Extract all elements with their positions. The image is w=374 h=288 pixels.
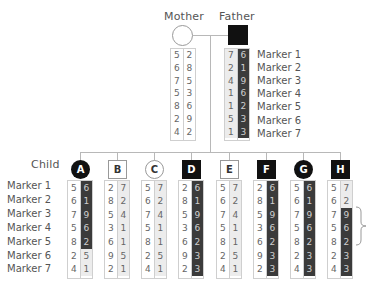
allele-column-left: 2853692	[254, 181, 266, 278]
allele-column-right: 7241151	[229, 181, 242, 278]
child-symbol-h: H	[331, 160, 350, 179]
allele-cell: 4	[155, 208, 167, 222]
marker-label: Marker 2	[257, 62, 301, 73]
allele-cell: 2	[105, 181, 117, 195]
allele-cell: 1	[304, 195, 316, 209]
descent-line	[210, 35, 211, 152]
allele-cell: 5	[230, 249, 242, 263]
allele-cell: 1	[238, 62, 250, 75]
allele-cell: 5	[179, 208, 191, 222]
allele-cell: 2	[118, 195, 130, 209]
allele-cell: 8	[254, 195, 266, 209]
allele-cell: 6	[304, 181, 316, 195]
child-symbol-a: A	[71, 160, 90, 179]
child-symbol-g: G	[294, 160, 313, 179]
allele-cell: 3	[192, 249, 204, 263]
allele-cell: 6	[179, 235, 191, 249]
allele-cell: 2	[328, 249, 340, 263]
allele-cell: 9	[192, 208, 204, 222]
allele-cell: 3	[254, 222, 266, 236]
allele-cell: 1	[118, 235, 130, 249]
allele-cell: 1	[81, 262, 93, 276]
allele-column-left: 5675824	[68, 181, 80, 278]
allele-cell: 8	[179, 195, 191, 209]
allele-cell: 3	[238, 125, 250, 138]
allele-column-right: 7241151	[154, 181, 167, 278]
allele-cell: 9	[267, 208, 279, 222]
allele-cell: 9	[184, 113, 196, 126]
allele-cell: 5	[291, 222, 303, 236]
allele-cell: 3	[341, 262, 353, 276]
father-symbol	[228, 25, 248, 45]
allele-cell: 6	[304, 222, 316, 236]
allele-cell: 1	[225, 100, 237, 113]
allele-column-left: 2853692	[179, 181, 191, 278]
allele-cell: 7	[217, 208, 229, 222]
allele-cell: 3	[238, 113, 250, 126]
allele-cell: 3	[341, 249, 353, 263]
allele-cell: 5	[118, 249, 130, 263]
allele-cell: 2	[341, 235, 353, 249]
allele-cell: 8	[68, 235, 80, 249]
allele-cell: 7	[341, 181, 353, 195]
allele-cell: 7	[328, 208, 340, 222]
allele-cell: 6	[192, 181, 204, 195]
marker-label: Marker 7	[257, 128, 301, 139]
allele-cell: 5	[225, 113, 237, 126]
allele-cell: 6	[105, 235, 117, 249]
allele-cell: 6	[142, 195, 154, 209]
allele-column-right: 6196233	[266, 181, 279, 278]
allele-cell: 7	[118, 181, 130, 195]
allele-cell: 6	[267, 222, 279, 236]
allele-column-left: 5675824	[291, 181, 303, 278]
marker-label: Marker 4	[7, 222, 51, 233]
allele-cell: 9	[81, 208, 93, 222]
marker-label: Marker 1	[257, 49, 301, 60]
allele-cell: 9	[304, 208, 316, 222]
allele-cell: 7	[155, 181, 167, 195]
child-id-label: A	[71, 160, 90, 179]
allele-cell: 2	[184, 125, 196, 138]
allele-cell: 5	[254, 208, 266, 222]
allele-cell: 1	[155, 222, 167, 236]
child-symbol-f: F	[257, 160, 276, 179]
allele-cell: 6	[238, 87, 250, 100]
marker-label: Marker 2	[7, 194, 51, 205]
allele-cell: 5	[171, 87, 183, 100]
allele-cell: 1	[225, 87, 237, 100]
marker-label: Marker 4	[257, 88, 301, 99]
allele-cell: 1	[230, 235, 242, 249]
allele-cell: 3	[105, 222, 117, 236]
allele-cell: 7	[68, 208, 80, 222]
allele-column-left: 2853692	[105, 181, 117, 278]
child-id-label: E	[221, 161, 238, 178]
allele-cell: 5	[155, 249, 167, 263]
allele-cell: 7	[291, 208, 303, 222]
allele-cell: 1	[155, 262, 167, 276]
allele-cell: 4	[118, 208, 130, 222]
child-allele-box-f: 28536926196233	[253, 180, 279, 279]
allele-cell: 2	[291, 249, 303, 263]
father-allele-box: 72411516196233	[224, 48, 250, 141]
allele-cell: 5	[291, 181, 303, 195]
allele-cell: 1	[118, 262, 130, 276]
allele-cell: 2	[105, 262, 117, 276]
allele-column-right: 6196233	[237, 49, 250, 140]
allele-cell: 1	[192, 195, 204, 209]
allele-cell: 2	[171, 113, 183, 126]
allele-column-left: 7241151	[225, 49, 237, 140]
marker-label: Marker 6	[7, 250, 51, 261]
allele-cell: 8	[105, 195, 117, 209]
haplotype-bracket	[355, 206, 369, 246]
allele-cell: 1	[81, 195, 93, 209]
allele-cell: 2	[155, 195, 167, 209]
allele-cell: 5	[68, 222, 80, 236]
mother-symbol	[172, 25, 193, 46]
child-allele-box-d: 28536926196233	[178, 180, 204, 279]
allele-cell: 5	[142, 181, 154, 195]
allele-cell: 8	[291, 235, 303, 249]
allele-cell: 1	[267, 195, 279, 209]
allele-cell: 6	[254, 235, 266, 249]
mother-allele-box: 56758242853692	[170, 48, 196, 141]
child-allele-box-b: 28536927241151	[104, 180, 130, 279]
